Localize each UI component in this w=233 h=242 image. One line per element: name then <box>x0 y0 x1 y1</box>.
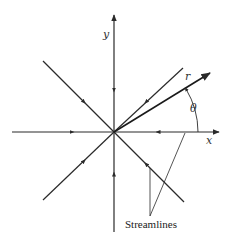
streamlines-label: Streamlines <box>125 218 177 230</box>
radius-label: r <box>185 70 191 83</box>
streamline-lower-right-diagonal <box>114 132 184 202</box>
x-axis-label: x <box>206 134 213 147</box>
streamline-upper-left-diagonal <box>43 61 114 132</box>
streamline-upper-right-diagonal <box>114 68 183 132</box>
sink-flow-diagram: y x r θ Streamlines <box>0 0 233 242</box>
theta-label: θ <box>190 102 197 115</box>
y-axis-label: y <box>102 28 110 41</box>
streamline-lower-left-diagonal <box>43 132 114 200</box>
streamlines-leader-lines <box>150 133 185 216</box>
